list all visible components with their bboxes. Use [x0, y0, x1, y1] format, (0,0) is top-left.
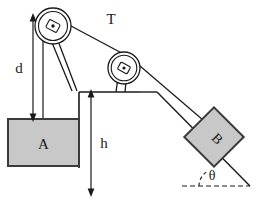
angle-arc-dashed — [199, 172, 207, 186]
dimension-d-group: d — [15, 13, 36, 122]
dimension-d-arrow-top — [30, 13, 37, 22]
angle-theta-label: θ — [209, 168, 216, 183]
left-pulley-group — [35, 8, 71, 44]
right-pulley-group — [108, 52, 140, 84]
block-a-label: A — [38, 136, 49, 152]
block-a-group: A — [8, 119, 79, 166]
physics-diagram: A B — [0, 0, 257, 202]
dimension-h-label: h — [100, 135, 108, 151]
angle-theta-group: θ — [182, 168, 250, 186]
dimension-h-arrow-top — [88, 89, 95, 98]
dimension-h-arrow-bottom — [88, 189, 95, 198]
diagram-canvas: A B — [0, 0, 257, 202]
dimension-d-label: d — [15, 60, 23, 76]
right-pulley-axle-dot — [122, 66, 125, 69]
rope-segment-incline — [140, 66, 203, 120]
left-pulley-axle-dot — [51, 24, 54, 27]
tension-label: T — [106, 11, 115, 27]
dimension-h-group: h — [88, 89, 109, 197]
